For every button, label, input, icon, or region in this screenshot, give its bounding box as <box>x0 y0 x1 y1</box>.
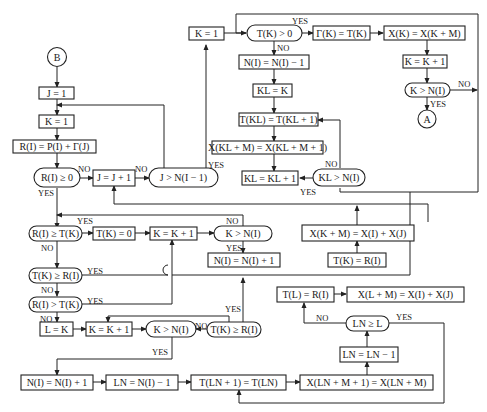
process-xln-set: X(LN + M + 1) = X(LN + M) <box>300 375 433 390</box>
label-yes: YES <box>396 312 412 322</box>
label-yes: YES <box>77 216 93 226</box>
decision-ln-ge-l: LN ≥ L <box>346 316 389 331</box>
svg-text:K = 1: K = 1 <box>195 28 218 39</box>
decision-j-gt-n: J > N(I − 1) <box>149 168 218 187</box>
svg-text:J = 1: J = 1 <box>47 88 67 99</box>
svg-text:T(K) ≥ R(I): T(K) ≥ R(I) <box>32 270 79 282</box>
svg-text:T(K) = R(I): T(K) = R(I) <box>333 255 380 267</box>
connector-a: A <box>418 110 436 128</box>
svg-text:T(LN + 1) = T(LN): T(LN + 1) = T(LN) <box>199 377 277 389</box>
svg-text:T(K) > 0: T(K) > 0 <box>257 28 293 40</box>
process-l-set: L = K <box>40 322 73 336</box>
svg-text:X(LN + M + 1) = X(LN + M): X(LN + M + 1) = X(LN + M) <box>307 377 427 389</box>
label-no: NO <box>277 43 289 53</box>
decision-tk-gt-0: T(K) > 0 <box>247 25 302 41</box>
label-yes: YES <box>225 304 241 314</box>
label-yes: YES <box>292 16 308 26</box>
svg-text:R(I) ≥ T(K): R(I) ≥ T(K) <box>32 228 79 240</box>
decision-k-gt-n-low: K > N(I) <box>146 321 196 337</box>
label-no: NO <box>458 79 470 89</box>
svg-text:R(I) = P(I) + Γ(J): R(I) = P(I) + Γ(J) <box>20 141 90 153</box>
label-yes: YES <box>208 160 224 170</box>
svg-text:X(L + M) = X(I) + X(J): X(L + M) = X(I) + X(J) <box>358 289 453 301</box>
flowchart: B J = 1 K = 1 R(I) = P(I) + Γ(J) R(I) ≥ … <box>0 0 487 412</box>
label-yes: YES <box>226 243 242 253</box>
process-j-init: J = 1 <box>39 87 74 99</box>
label-yes: YES <box>152 347 168 357</box>
process-ni-inc-mid: N(I) = N(I) + 1 <box>208 253 280 267</box>
process-tln-set: T(LN + 1) = T(LN) <box>191 375 286 390</box>
process-gamma-set: Γ(K) = T(K) <box>313 26 370 40</box>
svg-text:N(I) = N(I) + 1: N(I) = N(I) + 1 <box>214 255 275 267</box>
svg-text:LN = N(I) − 1: LN = N(I) − 1 <box>114 377 171 389</box>
svg-text:X(K) = X(K + M): X(K) = X(K + M) <box>388 28 460 40</box>
svg-text:KL = KL + 1: KL = KL + 1 <box>244 173 296 184</box>
svg-text:T(K) ≥ R(I): T(K) ≥ R(I) <box>210 324 257 336</box>
label-yes: YES <box>87 266 103 276</box>
svg-text:KL = K: KL = K <box>257 85 289 96</box>
svg-text:L = K: L = K <box>45 324 69 335</box>
decision-kl-gt-n: KL > N(I) <box>313 169 365 186</box>
decision-k-gt-n-top: K > N(I) <box>405 83 450 97</box>
label-no: NO <box>135 164 147 174</box>
label-no: NO <box>325 159 337 169</box>
svg-text:X(KL + M) = X(KL + M + 1): X(KL + M) = X(KL + M + 1) <box>208 142 327 154</box>
process-kl-inc: KL = KL + 1 <box>242 171 298 185</box>
decision-r-ge-0: R(I) ≥ 0 <box>34 168 80 187</box>
process-k-inc-low: K = K + 1 <box>86 322 132 336</box>
process-r-calc: R(I) = P(I) + Γ(J) <box>13 140 96 153</box>
label-yes: YES <box>300 187 316 197</box>
svg-text:T(L) = R(I): T(L) = R(I) <box>282 289 328 301</box>
process-k-inc-mid: K = K + 1 <box>150 227 197 240</box>
decision-ri-gt-tk: R(I) > T(K) <box>29 297 82 312</box>
decision-k-gt-n-mid: K > N(I) <box>214 226 272 241</box>
svg-text:KL > N(I): KL > N(I) <box>319 172 360 184</box>
process-ln-dec: LN = LN − 1 <box>340 347 398 362</box>
svg-text:LN ≥ L: LN ≥ L <box>353 318 383 329</box>
label-no: NO <box>316 313 328 323</box>
process-ni-inc-bot: N(I) = N(I) + 1 <box>21 375 93 390</box>
connectors <box>57 14 478 403</box>
label-yes: YES <box>430 99 446 109</box>
svg-text:K = 1: K = 1 <box>45 116 68 127</box>
svg-text:Γ(K) = T(K): Γ(K) = T(K) <box>316 28 366 40</box>
label-no: NO <box>226 216 238 226</box>
process-ln-set: LN = N(I) − 1 <box>106 375 178 390</box>
svg-text:R(I) ≥ 0: R(I) ≥ 0 <box>41 172 73 184</box>
svg-text:K > N(I): K > N(I) <box>410 85 445 97</box>
svg-text:K > N(I): K > N(I) <box>153 324 188 336</box>
svg-text:LN = LN − 1: LN = LN − 1 <box>343 349 396 360</box>
svg-text:N(I) = N(I) + 1: N(I) = N(I) + 1 <box>27 377 88 389</box>
label-no: NO <box>78 164 90 174</box>
svg-text:N(I) = N(I) − 1: N(I) = N(I) − 1 <box>244 57 305 69</box>
label-no: NO <box>41 243 53 253</box>
process-xlm-set: X(L + M) = X(I) + X(J) <box>347 287 464 302</box>
process-kl-set: KL = K <box>253 84 292 97</box>
label-yes: YES <box>38 188 54 198</box>
label-no: NO <box>195 321 207 331</box>
decision-tk-ge-ri: T(K) ≥ R(I) <box>29 268 82 283</box>
label-yes: YES <box>87 296 103 306</box>
svg-text:J > N(I − 1): J > N(I − 1) <box>160 172 207 184</box>
process-tkl-set: T(KL) = T(KL + 1) <box>239 113 318 126</box>
connector-b: B <box>48 48 67 67</box>
process-xkm-set: X(K + M) = X(I) + X(J) <box>302 225 414 241</box>
svg-text:K = K + 1: K = K + 1 <box>153 228 194 239</box>
connector-a-label: A <box>423 114 431 125</box>
label-no: NO <box>41 285 53 295</box>
label-no: NO <box>40 314 52 324</box>
svg-text:K = K + 1: K = K + 1 <box>89 324 130 335</box>
svg-text:R(I) > T(K): R(I) > T(K) <box>32 299 79 311</box>
process-xkl-set: X(KL + M) = X(KL + M + 1) <box>208 141 327 154</box>
svg-text:K > N(I): K > N(I) <box>225 228 260 240</box>
connector-b-label: B <box>54 52 61 63</box>
process-xk-set: X(K) = X(K + M) <box>384 26 465 40</box>
process-k-init-top: K = 1 <box>189 27 224 40</box>
svg-text:X(K + M) = X(I) + X(J): X(K + M) = X(I) + X(J) <box>310 228 407 240</box>
decision-tk-ge-ri-low: T(K) ≥ R(I) <box>207 322 261 337</box>
svg-text:K = K + 1: K = K + 1 <box>405 56 446 67</box>
process-j-inc: J = J + 1 <box>93 170 135 186</box>
process-k-inc-top: K = K + 1 <box>403 55 447 68</box>
svg-text:J = J + 1: J = J + 1 <box>97 172 131 183</box>
process-tk-ri: T(K) = R(I) <box>328 253 386 267</box>
